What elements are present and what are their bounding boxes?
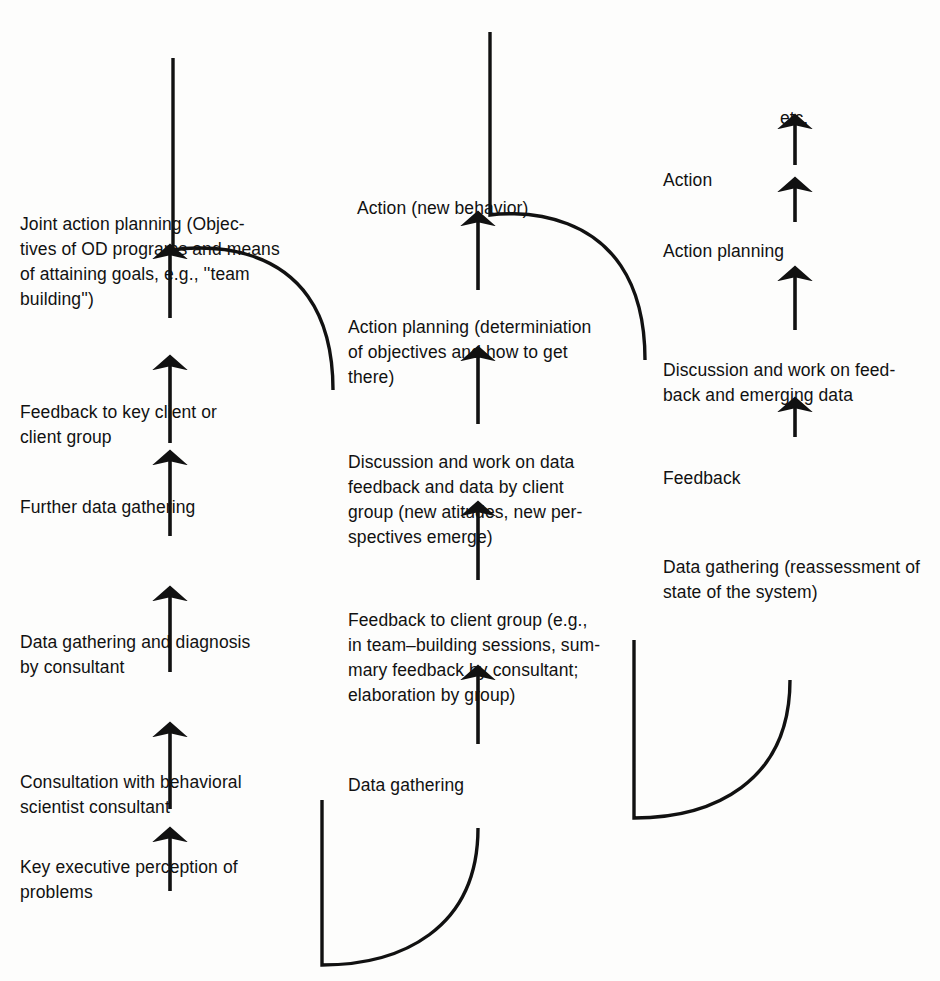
connector-bottom-left [322, 800, 478, 965]
step-label-c3-s2: Feedback [663, 466, 741, 491]
step-label-c1-s3: Data gathering and diagnosis by consulta… [20, 630, 250, 680]
step-label-c2-s3: Discussion and work on data feedback and… [348, 450, 582, 550]
action-research-diagram: Key executive perception of problemsCons… [0, 0, 940, 981]
step-label-c3-s1: Data gathering (reassessment of state of… [663, 555, 920, 605]
step-label-c2-s1: Data gathering [348, 773, 464, 798]
step-label-c1-s2: Consultation with behavioral scientist c… [20, 770, 242, 820]
step-label-c3-s5: Action [663, 168, 712, 193]
step-label-c3-s4: Action planning [663, 239, 784, 264]
etc-terminator-label: etc. [780, 106, 808, 131]
step-label-c2-s4: Action planning (determiniation of objec… [348, 315, 591, 390]
step-label-c1-s6: Joint action planning (Objec- tives of O… [20, 212, 280, 312]
step-label-c1-s1: Key executive perception of problems [20, 855, 238, 905]
step-label-c3-s3: Discussion and work on feed- back and em… [663, 358, 895, 408]
step-label-c1-s4: Further data gathering [20, 495, 195, 520]
step-label-c1-s5: Feedback to key client or client group [20, 400, 217, 450]
step-label-c2-s5: Action (new behavior) [357, 196, 528, 221]
step-label-c2-s2: Feedback to client group (e.g., in team–… [348, 608, 600, 708]
connector-bottom-middle [634, 640, 790, 818]
